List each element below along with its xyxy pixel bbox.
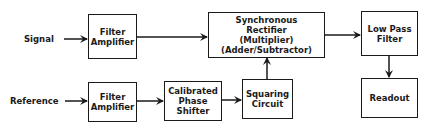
block-label: (Multiplier) xyxy=(239,35,293,45)
block-label: Filter xyxy=(100,92,126,102)
block-label: Circuit xyxy=(252,99,283,109)
readout-block: Readout xyxy=(361,78,418,118)
block-label: Readout xyxy=(369,93,409,103)
filter-amplifier-signal-block: Filter Amplifier xyxy=(88,14,137,59)
filter-amplifier-reference-block: Filter Amplifier xyxy=(88,82,137,122)
block-label: (Adder/Subtractor) xyxy=(221,45,312,55)
signal-input-label: Signal xyxy=(24,34,54,44)
block-label: Rectifier xyxy=(246,25,287,35)
block-label: Amplifier xyxy=(91,102,135,112)
block-label: Shifter xyxy=(177,106,210,116)
reference-input-label: Reference xyxy=(10,96,59,106)
block-label: Amplifier xyxy=(91,37,135,47)
synchronous-rectifier-block: Synchronous Rectifier (Multiplier) (Adde… xyxy=(208,12,325,58)
low-pass-filter-block: Low Pass Filter xyxy=(361,11,418,56)
block-label: Low Pass xyxy=(368,24,412,34)
calibrated-phase-shifter-block: Calibrated Phase Shifter xyxy=(164,81,222,121)
block-label: Filter xyxy=(100,27,126,37)
block-label: Phase xyxy=(179,96,208,106)
block-label: Calibrated xyxy=(168,86,218,96)
block-label: Synchronous xyxy=(236,15,298,25)
squaring-circuit-block: Squaring Circuit xyxy=(242,79,293,119)
block-label: Filter xyxy=(377,34,403,44)
block-label: Squaring xyxy=(246,89,289,99)
